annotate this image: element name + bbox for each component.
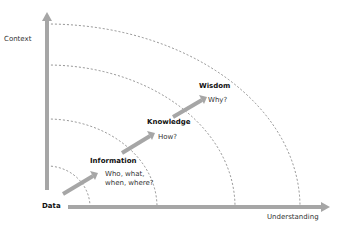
understanding-axis-arrowhead-icon (321, 202, 330, 212)
data-label: Data (42, 202, 61, 211)
information-question-line2: when, where? (105, 179, 154, 188)
diagram-canvas (0, 0, 344, 230)
understanding-axis-label: Understanding (267, 213, 319, 222)
arc-data (47, 166, 90, 207)
stage-wisdom-question: Why? (208, 96, 227, 105)
stage-knowledge-label: Knowledge (147, 118, 191, 127)
arrow-data-to-information (63, 176, 93, 194)
information-question-line1: Who, what, (105, 170, 154, 179)
arrow-information-to-knowledge (122, 136, 150, 153)
stage-information-label: Information (90, 157, 136, 166)
context-axis-arrowhead-icon (42, 12, 52, 21)
stage-information-question: Who, what, when, where? (105, 170, 154, 188)
context-axis-label: Context (4, 35, 31, 44)
stage-knowledge-question: How? (158, 133, 177, 142)
stage-wisdom-label: Wisdom (199, 82, 230, 91)
arrow-knowledge-to-wisdom (173, 100, 202, 117)
